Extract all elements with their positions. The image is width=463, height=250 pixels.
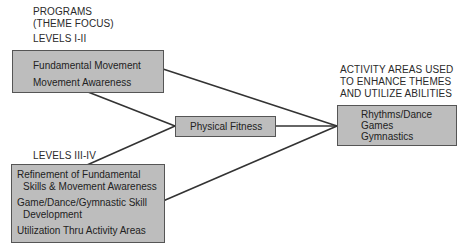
- bottom-box-item: Refinement of Fundamental: [17, 169, 164, 181]
- activity-item: Rhythms/Dance: [361, 109, 456, 120]
- physical-fitness-label: Physical Fitness: [190, 120, 275, 133]
- activity-item: Games: [361, 120, 456, 131]
- bottom-box-item: Skills & Movement Awareness: [17, 181, 164, 193]
- line-bottom-to-activities: [163, 126, 337, 201]
- activity-areas-box: Rhythms/Dance Games Gymnastics: [337, 105, 457, 146]
- top-box-item: Fundamental Movement: [33, 57, 163, 74]
- theme-focus-label: (THEME FOCUS): [33, 18, 114, 30]
- top-program-box: Fundamental Movement Movement Awareness: [12, 50, 164, 93]
- programs-label: PROGRAMS: [33, 6, 92, 18]
- activity-areas-label-3: AND UTILIZE ABILITIES: [340, 88, 452, 100]
- bottom-box-item: Utilization Thru Activity Areas: [17, 225, 164, 237]
- activity-areas-label-2: TO ENHANCE THEMES: [340, 76, 451, 88]
- levels-1-2-label: LEVELS I-II: [33, 33, 86, 45]
- line-top-to-fitness: [88, 92, 175, 126]
- bottom-box-item: Development: [17, 209, 164, 221]
- activity-areas-label-1: ACTIVITY AREAS USED: [340, 64, 453, 76]
- physical-fitness-box: Physical Fitness: [175, 116, 276, 137]
- bottom-box-item: Game/Dance/Gymnastic Skill: [17, 197, 164, 209]
- line-bottom-to-fitness: [87, 126, 175, 165]
- levels-3-4-label: LEVELS III-IV: [33, 150, 96, 162]
- top-box-item: Movement Awareness: [33, 74, 163, 91]
- bottom-program-box: Refinement of Fundamental Skills & Movem…: [11, 164, 165, 243]
- activity-item: Gymnastics: [361, 131, 456, 142]
